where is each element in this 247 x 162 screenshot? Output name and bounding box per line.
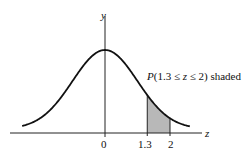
annotation-tail: ≤ 2) shaded <box>187 70 241 83</box>
tick-label-0: 0 <box>101 138 107 150</box>
y-axis-label: y <box>100 9 106 21</box>
shaded-annotation: P(1.3 ≤ z ≤ 2) shaded <box>146 70 241 83</box>
normal-curve-diagram: y z 0 1.3 2 P(1.3 ≤ z ≤ 2) shaded <box>0 0 247 162</box>
normal-curve <box>22 50 190 126</box>
tick-label-1-3: 1.3 <box>138 138 152 150</box>
x-axis-label: z <box>204 127 210 139</box>
annotation-rest: (1.3 ≤ <box>154 70 183 83</box>
tick-label-2: 2 <box>168 138 174 150</box>
